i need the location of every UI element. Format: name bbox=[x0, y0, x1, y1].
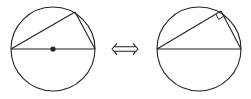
left-figure bbox=[11, 7, 95, 91]
right-figure bbox=[157, 7, 241, 91]
equivalence-arrow-icon bbox=[112, 43, 138, 54]
thales-diagram: Thales' theorem equivalence: a triangle … bbox=[0, 0, 251, 99]
left-chord-short bbox=[75, 12, 95, 49]
diagram-canvas bbox=[0, 0, 251, 99]
left-chord-long bbox=[11, 12, 75, 49]
center-dot bbox=[50, 46, 55, 51]
right-chord-long bbox=[157, 11, 221, 49]
